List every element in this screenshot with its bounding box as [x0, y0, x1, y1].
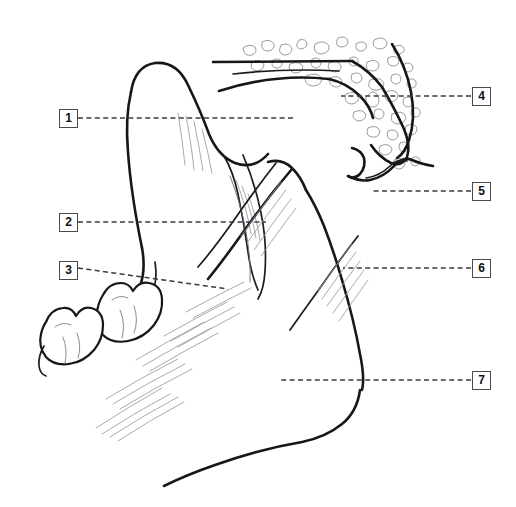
callout-box-5[interactable]: 5 — [472, 182, 491, 201]
trabecular-bone-stipple — [243, 37, 420, 169]
anatomy-figure: 1 2 3 4 5 6 7 — [0, 0, 516, 507]
callout-box-7[interactable]: 7 — [472, 371, 491, 390]
molar-teeth — [39, 283, 162, 376]
mandibular-foramen-band — [224, 155, 266, 299]
callout-box-6[interactable]: 6 — [472, 259, 491, 278]
callout-box-2[interactable]: 2 — [59, 213, 78, 232]
coronoid-process — [127, 63, 268, 248]
temporalis-fiber-hatching — [178, 113, 212, 173]
anatomy-illustration — [0, 0, 516, 507]
callout-box-1[interactable]: 1 — [59, 109, 78, 128]
mandible-lower-border — [164, 390, 360, 486]
callout-box-3[interactable]: 3 — [59, 261, 78, 280]
callout-box-4[interactable]: 4 — [472, 87, 491, 106]
stylomandibular-ligament — [290, 236, 368, 330]
sphenomandibular-ligament — [198, 163, 296, 279]
